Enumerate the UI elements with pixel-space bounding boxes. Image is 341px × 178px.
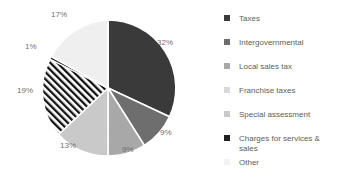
pie-chart-plot-area: 32% 9% 9% 13% 19% 1% 17% (0, 0, 200, 178)
legend-item-other[interactable]: Other (224, 158, 259, 168)
legend-item-local-sales-tax[interactable]: Local sales tax (224, 62, 292, 72)
pie-slices (42, 20, 176, 156)
pie-chart-screenshot: 32% 9% 9% 13% 19% 1% 17% Taxes Intergove… (0, 0, 341, 178)
legend-label-local-sales-tax: Local sales tax (239, 62, 292, 72)
slice-label-franchise-taxes: 13% (60, 141, 76, 150)
legend-label-special-assessment: Special assessment (239, 110, 310, 120)
legend-swatch-icon-franchise-taxes (224, 87, 230, 93)
legend-swatch-icon-special-assessment (224, 111, 230, 117)
legend-swatch-icon-intergovernmental (224, 39, 230, 45)
legend-item-taxes[interactable]: Taxes (224, 14, 260, 24)
legend-item-franchise-taxes[interactable]: Franchise taxes (224, 86, 295, 96)
slice-label-taxes: 32% (157, 38, 173, 47)
legend-label-charges-for-services-and-sales: Charges for services & sales (239, 134, 335, 154)
slice-label-intergovernmental: 9% (160, 128, 172, 137)
legend-swatch-icon-taxes (224, 15, 230, 21)
legend-label-intergovernmental: Intergovernmental (239, 38, 303, 48)
chart-legend: Taxes Intergovernmental Local sales tax … (224, 8, 341, 174)
legend-label-other: Other (239, 158, 259, 168)
slice-label-charges-for-services-and-sales: 19% (17, 86, 33, 95)
legend-item-charges-for-services-and-sales[interactable]: Charges for services & sales (224, 134, 335, 154)
slice-label-other: 17% (51, 10, 67, 19)
slice-label-special-assessment: 1% (25, 42, 37, 51)
legend-swatch-icon-charges-for-services-and-sales (224, 135, 230, 141)
legend-label-franchise-taxes: Franchise taxes (239, 86, 295, 96)
legend-swatch-icon-other (224, 159, 230, 165)
legend-item-special-assessment[interactable]: Special assessment (224, 110, 310, 120)
slice-label-local-sales-tax: 9% (122, 145, 134, 154)
legend-label-taxes: Taxes (239, 14, 260, 24)
legend-swatch-icon-local-sales-tax (224, 63, 230, 69)
legend-item-intergovernmental[interactable]: Intergovernmental (224, 38, 303, 48)
